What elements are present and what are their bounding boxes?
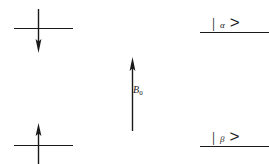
upper-level-line-left xyxy=(14,28,73,29)
magnetic-field-subscript: 0 xyxy=(139,89,143,97)
lower-level-line-left xyxy=(14,145,73,146)
alpha-state-ket-label: | α > xyxy=(212,14,240,31)
alpha-ket-bar: | xyxy=(212,16,215,31)
alpha-ket-symbol: α xyxy=(220,20,225,30)
spin-up-arrow-icon xyxy=(34,123,43,164)
alpha-ket-angle-bracket: > xyxy=(230,14,240,31)
lower-level-line-right xyxy=(200,146,269,147)
beta-state-ket-label: | β > xyxy=(212,128,239,145)
spin-energy-level-diagram: B0 | α > | β > xyxy=(0,0,269,164)
magnetic-field-label: B0 xyxy=(133,84,143,97)
beta-ket-symbol: β xyxy=(220,134,224,144)
beta-ket-bar: | xyxy=(212,130,215,145)
beta-ket-angle-bracket: > xyxy=(230,128,240,145)
spin-down-arrow-icon xyxy=(34,9,43,53)
upper-level-line-right xyxy=(200,32,269,33)
